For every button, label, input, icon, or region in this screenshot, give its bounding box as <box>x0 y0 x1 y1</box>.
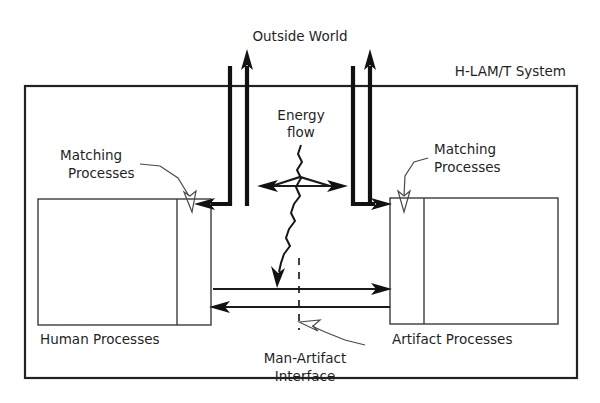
interface-leader-line <box>312 326 365 345</box>
human-processes-box <box>38 199 211 325</box>
human-processes-caption: Human Processes <box>40 331 160 347</box>
interface-leader-arrowhead-icon <box>299 320 320 331</box>
diagram-root: Outside World H-LAM/T System Energy flow… <box>0 0 600 403</box>
matching-left-label-line2: Processes <box>68 165 135 181</box>
artifact-processes-box <box>390 198 558 324</box>
matching-left-leader-line <box>140 164 189 196</box>
energy-flow-down-arrowhead-icon <box>271 266 285 288</box>
hlamt-system-diagram: Outside World H-LAM/T System Energy flow… <box>0 0 600 403</box>
matching-left-leader-arrowhead-icon <box>184 191 196 212</box>
energy-flow-wavy-line <box>279 145 302 272</box>
matching-left-label-line1: Matching <box>60 147 122 163</box>
interface-label-line2: Interface <box>275 368 335 384</box>
system-frame-label: H-LAM/T System <box>455 63 566 79</box>
interface-label-line1: Man-Artifact <box>264 350 347 366</box>
energy-flow-label-line2: flow <box>287 124 315 140</box>
matching-right-leader-line <box>404 158 428 196</box>
matching-right-label-line2: Processes <box>434 159 501 175</box>
matching-right-label-line1: Matching <box>434 141 496 157</box>
artifact-processes-caption: Artifact Processes <box>392 331 512 347</box>
energy-flow-label-line1: Energy <box>277 107 324 123</box>
outside-world-label: Outside World <box>252 28 347 44</box>
